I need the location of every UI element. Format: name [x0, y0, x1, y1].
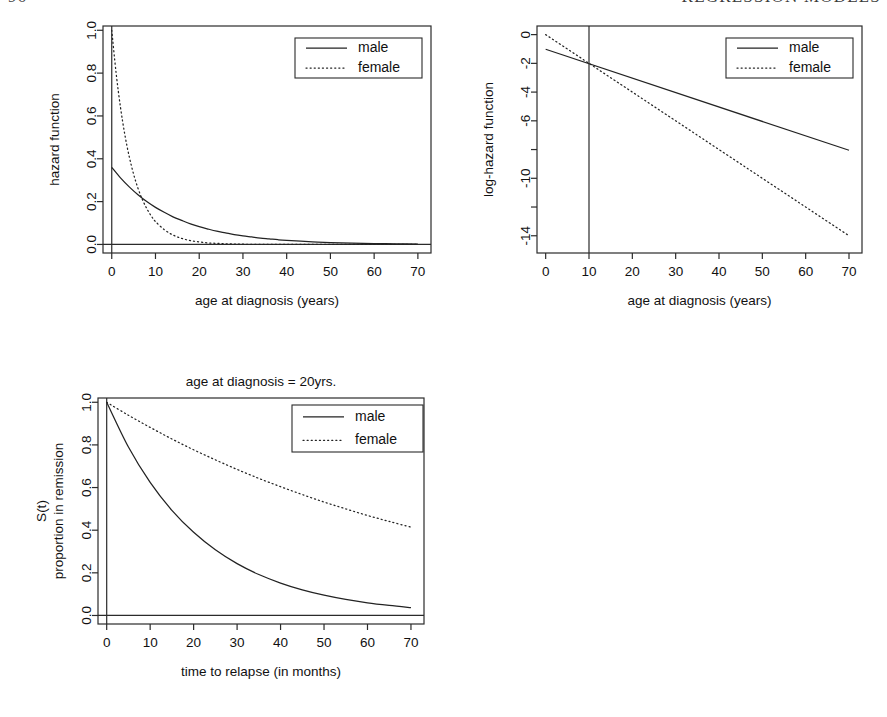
x-tick-label: 20 — [186, 635, 201, 650]
y-tick-label: 0.4 — [84, 149, 99, 168]
x-tick-label: 60 — [798, 264, 813, 279]
y-tick-label: -4 — [518, 86, 533, 98]
x-tick-label: 70 — [403, 635, 418, 650]
y-axis-title: hazard function — [47, 93, 62, 185]
x-tick-label: 50 — [317, 635, 332, 650]
chart-hazard-function: 0102030405060700.00.20.40.60.81.0age at … — [0, 12, 447, 332]
y-tick-label: 0.4 — [79, 520, 94, 539]
x-axis-title: age at diagnosis (years) — [195, 293, 339, 308]
legend-label-male: male — [358, 39, 389, 55]
y-tick-label: 0.0 — [84, 235, 99, 254]
y-tick-label: -14 — [518, 226, 533, 246]
x-tick-label: 50 — [755, 264, 770, 279]
running-title: REGRESSION MODELS — [682, 0, 881, 7]
y-tick-label: 1.0 — [84, 21, 99, 40]
x-tick-label: 70 — [841, 264, 856, 279]
legend-label-male: male — [789, 39, 820, 55]
x-tick-label: 20 — [192, 264, 207, 279]
x-tick-label: 40 — [273, 635, 288, 650]
x-tick-label: 0 — [108, 264, 116, 279]
x-axis-title: time to relapse (in months) — [181, 664, 341, 679]
figure-hazard-function: 0102030405060700.00.20.40.60.81.0age at … — [0, 12, 447, 332]
y-tick-label: 0.6 — [84, 107, 99, 126]
y-tick-label: 0.2 — [79, 563, 94, 582]
x-tick-label: 30 — [668, 264, 683, 279]
x-tick-label: 60 — [360, 635, 375, 650]
x-tick-label: 60 — [367, 264, 382, 279]
x-tick-label: 10 — [143, 635, 158, 650]
y-tick-label: 0.0 — [79, 606, 94, 625]
plot-title: age at diagnosis = 20yrs. — [186, 374, 336, 389]
legend: malefemale — [292, 405, 423, 452]
y-tick-label: 1.0 — [79, 393, 94, 412]
legend-label-female: female — [789, 59, 831, 75]
x-tick-label: 10 — [148, 264, 163, 279]
x-tick-label: 50 — [323, 264, 338, 279]
series-line-male — [112, 167, 418, 244]
figure-log-hazard-function: 0102030405060700-2-4-6-10-14age at diagn… — [440, 12, 887, 332]
legend-label-male: male — [355, 408, 386, 424]
page-number: 96 — [8, 0, 27, 7]
y-tick-label: 0.8 — [79, 436, 94, 455]
legend: malefemale — [726, 38, 853, 78]
y-tick-label: -6 — [518, 115, 533, 127]
x-tick-label: 10 — [581, 264, 596, 279]
legend: malefemale — [295, 38, 422, 78]
x-tick-label: 0 — [542, 264, 550, 279]
y-tick-label: -10 — [518, 169, 533, 189]
x-tick-label: 30 — [235, 264, 250, 279]
x-tick-label: 0 — [103, 635, 111, 650]
x-tick-label: 30 — [230, 635, 245, 650]
y-tick-label: 0.8 — [84, 64, 99, 83]
figure-survival-function: 0102030405060700.00.20.40.60.81.0time to… — [0, 358, 447, 716]
chart-log-hazard-function: 0102030405060700-2-4-6-10-14age at diagn… — [440, 12, 887, 332]
y-axis-title: S(t) — [34, 500, 49, 522]
y-tick-label: 0 — [518, 31, 533, 39]
x-tick-label: 70 — [410, 264, 425, 279]
legend-label-female: female — [355, 431, 397, 447]
x-axis-title: age at diagnosis (years) — [627, 293, 771, 308]
y-tick-label: -2 — [518, 57, 533, 69]
y-axis-title: log-hazard function — [481, 82, 496, 197]
x-tick-label: 20 — [625, 264, 640, 279]
y-axis-title-secondary: proportion in remission — [51, 443, 66, 580]
x-tick-label: 40 — [711, 264, 726, 279]
y-tick-label: 0.6 — [79, 478, 94, 497]
y-tick-label: 0.2 — [84, 192, 99, 211]
x-tick-label: 40 — [279, 264, 294, 279]
legend-label-female: female — [358, 59, 400, 75]
chart-survival-function: 0102030405060700.00.20.40.60.81.0time to… — [0, 358, 447, 716]
